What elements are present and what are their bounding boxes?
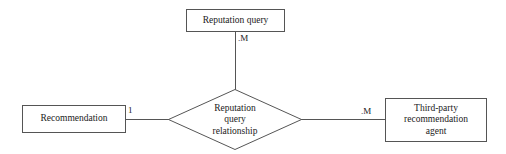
entity-reputation-query: Reputation query <box>186 9 285 32</box>
cardinality-left: 1 <box>128 106 133 115</box>
entity-recommendation-label: Recommendation <box>36 113 111 124</box>
connector-relationship-to-right <box>301 119 386 120</box>
entity-third-party-line-1: Third-party <box>404 103 468 114</box>
connector-top-to-relationship <box>235 31 236 90</box>
entity-third-party-line-3: agent <box>404 126 468 137</box>
entity-recommendation: Recommendation <box>22 105 126 133</box>
entity-third-party-recommendation-agent-label: Third-party recommendation agent <box>400 103 472 137</box>
relationship-diamond-shape <box>168 89 302 150</box>
entity-third-party-recommendation-agent: Third-party recommendation agent <box>385 98 487 142</box>
connector-left-to-relationship <box>125 119 169 120</box>
entity-recommendation-line-1: Recommendation <box>40 113 107 124</box>
er-diagram-canvas: Reputation query Recommendation Third-pa… <box>0 0 506 154</box>
entity-reputation-query-label: Reputation query <box>199 15 273 26</box>
entity-reputation-query-line-1: Reputation query <box>203 15 269 26</box>
entity-third-party-line-2: recommendation <box>404 114 468 125</box>
cardinality-top: .M <box>238 34 248 43</box>
cardinality-right: .M <box>361 107 371 116</box>
